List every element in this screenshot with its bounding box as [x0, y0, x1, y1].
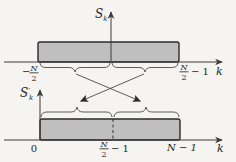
- fft-shift-figure: Sk k − N 2 N 2 − 1 S′k k 0 N 2 − 1: [0, 0, 236, 162]
- swap-arrow-right-to-left: [81, 74, 144, 101]
- svg-text:2: 2: [31, 74, 36, 83]
- top-y-axis-label: Sk: [95, 7, 107, 23]
- bottom-y-axis-label: S′k: [20, 86, 33, 102]
- svg-text:N: N: [30, 64, 39, 73]
- svg-text:N: N: [180, 63, 189, 72]
- top-left-tick-label: − N 2: [22, 64, 39, 83]
- svg-text:−: −: [22, 66, 30, 77]
- figure-canvas: Sk k − N 2 N 2 − 1 S′k k 0 N 2 − 1: [0, 0, 236, 162]
- bottom-spectrum-rect: [40, 119, 180, 140]
- bottom-right-overbrace: [114, 107, 179, 117]
- top-right-tick-label: N 2 − 1: [180, 63, 209, 82]
- top-right-underbrace: [112, 63, 178, 72]
- bottom-mid-tick-label: N 2 − 1: [100, 140, 129, 159]
- bottom-left-overbrace: [41, 107, 112, 117]
- svg-text:N: N: [100, 140, 109, 149]
- svg-text:− 1: − 1: [111, 143, 129, 154]
- svg-text:2: 2: [101, 150, 106, 159]
- top-x-axis-label: k: [216, 65, 223, 78]
- swap-arrow-left-to-right: [76, 74, 140, 101]
- bottom-right-tick-label: N − 1: [166, 142, 197, 153]
- top-left-underbrace: [40, 63, 110, 72]
- top-spectrum-rect: [38, 42, 179, 62]
- svg-text:− 1: − 1: [191, 66, 209, 77]
- bottom-x-axis-label: k: [217, 142, 224, 155]
- svg-text:2: 2: [181, 73, 186, 82]
- bottom-origin-tick-label: 0: [31, 143, 37, 154]
